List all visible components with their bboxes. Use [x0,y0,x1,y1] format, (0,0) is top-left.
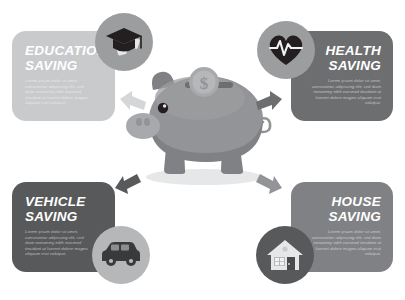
heart-pulse-icon [266,32,306,68]
badge-vehicle[interactable] [92,226,150,284]
arrow-to-house [254,168,284,196]
graduation-cap-icon [104,24,144,60]
car-icon [99,240,143,270]
dollar-coin-icon: $ [188,66,220,98]
card-vehicle-title: VEHICLE SAVING [25,195,103,224]
coin-symbol: $ [200,74,209,93]
badge-education[interactable] [95,13,153,71]
arrow-to-health [254,90,284,116]
badge-house[interactable] [256,226,314,284]
infographic-canvas: $ EDUCATION SAVING Lorem ipsum dolor sit… [0,0,405,300]
card-vehicle-body: Lorem ipsum dolor sit amet, consectetur … [25,229,91,257]
card-education-body: Lorem ipsum dolor sit amet, consectetur … [25,78,91,106]
badge-health[interactable] [257,21,315,79]
card-house-body: Lorem ipsum dolor sit amet, consectetur … [311,229,381,257]
house-icon [265,237,305,273]
card-house-title: HOUSE SAVING [303,195,381,224]
card-health-body: Lorem ipsum dolor sit amet, consectetur … [311,78,381,106]
arrow-to-education [118,90,148,116]
card-education-title: EDUCATION SAVING [25,44,103,73]
arrow-to-vehicle [113,168,143,196]
